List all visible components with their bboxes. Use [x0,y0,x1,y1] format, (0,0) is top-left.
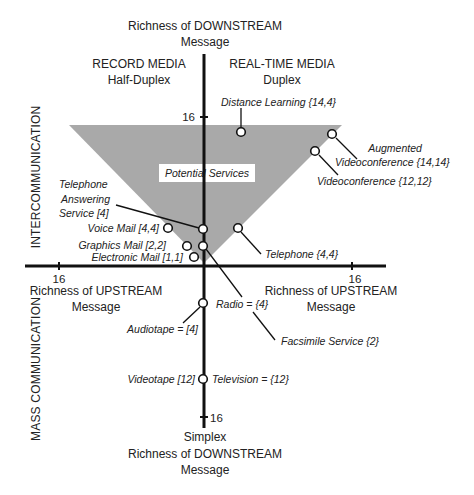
node-marker-videotape-television [199,375,208,384]
half-duplex-label: Half-Duplex [108,73,171,87]
label-voice-mail: Voice Mail [4,4] [88,222,160,234]
bottom-axis-title-line2: Richness of DOWNSTREAM [128,447,282,461]
label-graphics-mail: Graphics Mail [2,2] [78,239,167,251]
top-axis-title-line1: Richness of DOWNSTREAM [128,19,282,33]
media-richness-diagram: Potential Services 16 16 16 16 Richness … [0,0,474,495]
label-distance-learning: Distance Learning {14,4} [221,96,336,108]
label-tas-line3: Service [4] [59,207,110,219]
node-marker-electronic-mail [190,253,199,262]
node-marker-videoconference [311,147,320,156]
tick-label-top: 16 [182,111,195,123]
real-time-media-heading: REAL-TIME MEDIA [229,57,334,71]
duplex-label: Duplex [263,73,300,87]
node-marker-radio-audiotape [199,299,208,308]
node-marker-telephone [234,224,243,233]
node-marker-facsimile [199,242,208,251]
node-marker-distance-learning [237,128,246,137]
record-media-heading: RECORD MEDIA [92,57,185,71]
label-augmented-line2: Videoconference {14,14} [335,156,450,168]
left-axis-title-line1: Richness of UPSTREAM [30,284,163,298]
left-axis-title-line2: Message [72,300,121,314]
node-marker-telephone-answering-service [199,225,208,234]
node-marker-augmented-videoconference [328,130,337,139]
label-videotape: Videotape [12] [127,373,196,385]
label-videoconference: Videoconference {12,12} [317,175,432,187]
mass-communication-label: MASS COMMUNICATION [29,297,43,441]
potential-services-label: Potential Services [165,167,250,179]
top-axis-title-line2: Message [181,35,230,49]
right-axis-title-line2: Message [307,300,356,314]
node-marker-graphics-mail [183,242,192,251]
label-facsimile: Facsimile Service {2} [281,335,380,347]
bottom-axis-title-line3: Message [181,463,230,477]
label-audiotape: Audiotape = [4] [126,323,199,335]
label-augmented-line1: Augmented [367,142,423,154]
intercommunication-label: INTERCOMMUNICATION [29,106,43,249]
label-tas-line1: Telephone [59,178,108,190]
label-tas-line2: Answering [60,193,110,205]
label-electronic-mail: Electronic Mail [1,1] [91,251,184,263]
label-telephone: Telephone {4,4} [265,248,339,260]
tick-label-bottom: 16 [210,412,223,424]
node-marker-voice-mail [164,224,173,233]
bottom-axis-title-line1: Simplex [184,430,227,444]
label-radio: Radio = {4} [216,298,269,310]
label-television: Television = {12} [212,373,289,385]
right-axis-title-line1: Richness of UPSTREAM [265,284,398,298]
